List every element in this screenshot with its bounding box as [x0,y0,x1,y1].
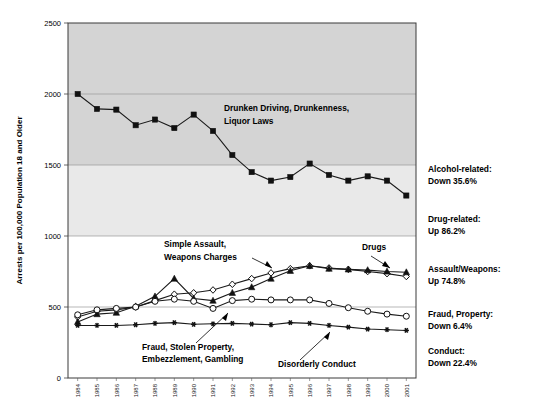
side-annotation-assault-weapons-value: Up 74.8% [428,276,466,286]
marker-0-9 [249,170,254,175]
ytick-label-1000: 1000 [44,232,61,241]
xtick-label-1985: 1985 [94,383,100,397]
arrests-line-chart: 05001000150020002500Arrests per 100,000 … [0,0,546,420]
marker-0-13 [326,172,331,177]
marker-3-0 [75,312,81,318]
xtick-label-1984: 1984 [75,383,81,397]
marker-3-17 [403,313,409,319]
marker-3-15 [365,308,371,314]
annotation-assault-line1: Simple Assault, [164,239,226,249]
xtick-label-1988: 1988 [152,383,158,397]
side-annotation-conduct-change-value: Down 22.4% [428,358,477,368]
marker-0-14 [346,178,351,183]
marker-3-12 [307,297,313,303]
y-axis-title: Arrests per 100,000 Population 18 and Ol… [15,116,24,284]
marker-3-4 [152,298,158,304]
marker-0-15 [365,174,370,179]
marker-0-7 [210,128,215,133]
annotation-alcohol-line1: Drunken Driving, Drunkenness, [224,103,349,113]
side-annotation-alcohol-related-title: Alcohol-related: [428,164,492,174]
side-annotation-conduct-change-title: Conduct: [428,346,465,356]
xtick-label-1989: 1989 [172,383,178,397]
marker-3-14 [345,305,351,311]
marker-3-10 [268,297,274,303]
marker-0-16 [384,178,389,183]
marker-0-4 [152,117,157,122]
side-annotation-drug-related-value: Up 86.2% [428,226,466,236]
xtick-label-1987: 1987 [133,383,139,397]
side-annotation-drug-related-title: Drug-related: [428,214,481,224]
marker-3-16 [384,311,390,317]
marker-0-6 [191,112,196,117]
xtick-label-1995: 1995 [288,383,294,397]
marker-3-11 [287,297,293,303]
marker-3-13 [326,300,332,306]
xtick-label-1997: 1997 [326,383,332,397]
marker-0-12 [307,161,312,166]
marker-0-5 [172,125,177,130]
marker-3-9 [249,296,255,302]
xtick-label-1999: 1999 [365,383,371,397]
xtick-label-2001: 2001 [404,383,410,397]
xtick-label-1996: 1996 [307,383,313,397]
marker-3-5 [171,296,177,302]
marker-0-0 [75,91,80,96]
annotation-drugs-label: Drugs [362,242,387,252]
annotation-conduct-label: Disorderly Conduct [278,359,356,369]
marker-0-10 [268,178,273,183]
marker-0-11 [288,174,293,179]
marker-0-1 [94,106,99,111]
marker-3-3 [133,304,139,310]
ytick-label-1500: 1500 [44,161,61,170]
ytick-label-500: 500 [48,303,61,312]
xtick-label-1992: 1992 [230,383,236,397]
marker-3-8 [229,298,235,304]
side-annotation-alcohol-related-value: Down 35.6% [428,176,477,186]
xtick-label-1986: 1986 [114,383,120,397]
xtick-label-1990: 1990 [191,383,197,397]
ytick-label-2500: 2500 [44,19,61,28]
chart-container: 05001000150020002500Arrests per 100,000 … [0,0,546,420]
marker-0-3 [133,123,138,128]
annotation-fraud-line2: Embezzlement, Gambling [142,354,243,364]
xtick-label-1993: 1993 [249,383,255,397]
marker-3-2 [113,305,119,311]
xtick-label-1998: 1998 [346,383,352,397]
marker-3-6 [191,298,197,304]
xtick-label-1991: 1991 [210,383,216,397]
side-annotation-fraud-property-value: Down 6.4% [428,321,473,331]
annotation-fraud-line1: Fraud, Stolen Property, [142,342,234,352]
marker-0-8 [230,152,235,157]
side-annotation-assault-weapons-title: Assault/Weapons: [428,264,500,274]
marker-0-17 [404,193,409,198]
xtick-label-1994: 1994 [268,383,274,397]
ytick-label-2000: 2000 [44,90,61,99]
marker-3-1 [94,307,100,313]
annotation-alcohol-line2: Liquor Laws [224,116,274,126]
side-annotation-fraud-property-title: Fraud, Property: [428,309,493,319]
ytick-label-0: 0 [57,374,61,383]
xtick-label-2000: 2000 [384,383,390,397]
marker-0-2 [114,107,119,112]
annotation-assault-line2: Weapons Charges [164,252,237,262]
marker-3-7 [210,305,216,311]
band-mid [68,165,416,236]
